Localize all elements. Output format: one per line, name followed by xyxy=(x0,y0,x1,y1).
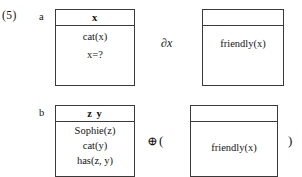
merge-operator-icon: ⊕ xyxy=(147,135,157,148)
drs-box-a-right: friendly(x) xyxy=(202,9,284,86)
figure-canvas: (5) a x cat(x) x=? ∂x friendly(x) b z y … xyxy=(0,0,302,177)
drs-condition: has(z, y) xyxy=(77,155,113,166)
equation-number: (5) xyxy=(2,10,17,22)
paren-open: ( xyxy=(159,134,163,147)
row-label-b: b xyxy=(39,108,44,119)
drs-condition: cat(y) xyxy=(83,140,107,151)
drs-box-a-left: x cat(x) x=? xyxy=(55,9,135,86)
drs-condition: friendly(x) xyxy=(211,142,256,153)
drs-condition: friendly(x) xyxy=(220,38,265,49)
paren-close: ) xyxy=(288,134,292,147)
partial-derivative-operator: ∂x xyxy=(161,37,172,49)
drs-condition: x=? xyxy=(87,49,103,60)
drs-box-a-left-discourse-referents: x xyxy=(56,10,134,26)
drs-box-b-left-discourse-referents: z y xyxy=(56,106,134,122)
drs-box-b-right-conditions: friendly(x) xyxy=(191,122,277,153)
drs-box-b-left-conditions: Sophie(z) cat(y) has(z, y) xyxy=(56,122,134,170)
drs-condition: cat(x) xyxy=(83,31,107,42)
drs-box-b-left: z y Sophie(z) cat(y) has(z, y) xyxy=(55,105,135,177)
drs-box-b-right-discourse-referents xyxy=(191,106,277,122)
drs-box-b-right: friendly(x) xyxy=(190,105,278,177)
drs-box-a-right-conditions: friendly(x) xyxy=(203,26,283,49)
drs-condition: Sophie(z) xyxy=(75,125,116,136)
drs-box-a-left-conditions: cat(x) x=? xyxy=(56,26,134,67)
drs-box-a-right-discourse-referents xyxy=(203,10,283,26)
row-label-a: a xyxy=(39,12,44,23)
